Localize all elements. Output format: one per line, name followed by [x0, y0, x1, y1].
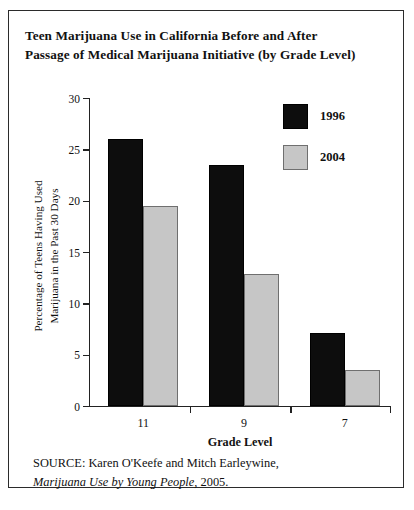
bar-1996-grade-11: [108, 139, 143, 406]
y-axis-title-line-1: Percentage of Teens Having Used: [30, 180, 46, 331]
y-tick-mark: [83, 406, 90, 407]
x-axis-title: Grade Level: [89, 435, 391, 450]
source-line-2: Marijuana Use by Young People, 2005.: [33, 473, 383, 492]
x-tick-label-7: 7: [342, 416, 348, 431]
y-tick-label: 0: [74, 401, 80, 413]
y-axis-title: Percentage of Teens Having Used Marijuan…: [31, 131, 61, 381]
y-tick-mark: [83, 149, 90, 150]
bar-2004-grade-9: [244, 274, 279, 406]
y-axis-title-line-2: Marijuana in the Past 30 Days: [46, 180, 62, 331]
x-tick-mark: [290, 406, 291, 413]
y-tick-label: 25: [69, 144, 81, 156]
x-tick-mark: [190, 406, 191, 413]
source-line-1: SOURCE: Karen O'Keefe and Mitch Earleywi…: [33, 454, 383, 473]
figure-frame: Teen Marijuana Use in California Before …: [8, 10, 404, 488]
bar-1996-grade-7: [310, 333, 345, 406]
source-publication-title: Marijuana Use by Young People: [33, 475, 194, 489]
y-tick-mark: [83, 303, 90, 304]
y-tick-label: 10: [69, 298, 81, 310]
title-line-1: Teen Marijuana Use in California Before …: [25, 27, 385, 46]
page-title: Teen Marijuana Use in California Before …: [25, 27, 385, 64]
x-tick-label-11: 11: [138, 416, 150, 431]
y-tick-mark: [83, 98, 90, 99]
x-tick-label-9: 9: [241, 416, 247, 431]
source-year: , 2005.: [194, 475, 228, 489]
bar-2004-grade-7: [345, 370, 380, 406]
bar-2004-grade-11: [143, 206, 178, 406]
bar-1996-grade-9: [209, 165, 244, 406]
y-tick-mark: [83, 355, 90, 356]
y-tick-mark: [83, 201, 90, 202]
y-tick-label: 15: [69, 247, 81, 259]
x-axis-line: [89, 406, 391, 407]
y-tick-mark: [83, 252, 90, 253]
x-tick-mark: [390, 406, 391, 413]
y-tick-label: 30: [69, 93, 81, 105]
y-tick-label: 5: [74, 349, 80, 361]
title-line-2: Passage of Medical Marijuana Initiative …: [25, 46, 385, 65]
y-tick-label: 20: [69, 195, 81, 207]
plot-area: 051015202530 1197: [89, 98, 391, 406]
source-note: SOURCE: Karen O'Keefe and Mitch Earleywi…: [33, 454, 383, 492]
